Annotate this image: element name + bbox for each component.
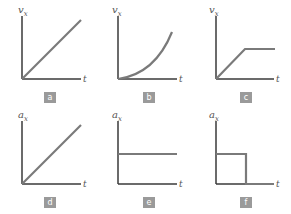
- graph-b: vx t b: [95, 0, 192, 107]
- graph-label-badge: e: [143, 197, 155, 208]
- graph-c-plot: [190, 0, 291, 107]
- graph-label-badge: d: [44, 197, 56, 208]
- graph-label-badge: a: [44, 92, 56, 103]
- graph-b-plot: [95, 0, 192, 107]
- x-axis-label: t: [83, 179, 87, 189]
- x-axis-label: t: [83, 74, 87, 84]
- graph-e: ax t e: [95, 105, 192, 212]
- x-axis-label: t: [276, 179, 280, 189]
- graph-label-badge: b: [143, 92, 155, 103]
- y-axis-label: ax: [209, 109, 219, 123]
- y-axis-label: vx: [112, 4, 122, 18]
- y-axis-label: ax: [112, 109, 122, 123]
- x-axis-label: t: [179, 179, 183, 189]
- y-axis-label: vx: [209, 4, 219, 18]
- graph-label-badge: f: [240, 197, 252, 208]
- graph-c: vx t c: [190, 0, 287, 107]
- graph-d: ax t d: [0, 105, 97, 212]
- graph-f: ax t f: [190, 105, 287, 212]
- graph-a: vx t a: [0, 0, 97, 107]
- graph-label-badge: c: [240, 92, 252, 103]
- x-axis-label: t: [179, 74, 183, 84]
- y-axis-label: vx: [18, 4, 28, 18]
- x-axis-label: t: [276, 74, 280, 84]
- graph-a-plot: [0, 0, 97, 107]
- y-axis-label: ax: [18, 109, 28, 123]
